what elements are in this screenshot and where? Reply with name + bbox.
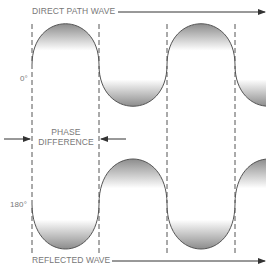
phase-label-line1: PHASE xyxy=(33,127,99,137)
reflected-wave xyxy=(30,159,266,249)
angle-0-label: 0° xyxy=(20,74,28,83)
angle-180-label: 180° xyxy=(10,200,27,209)
direct-path-label: DIRECT PATH WAVE xyxy=(32,6,115,16)
direct-path-wave xyxy=(30,24,266,107)
reflected-wave-label: REFLECTED WAVE xyxy=(32,255,110,265)
phase-label-line2: DIFFERENCE xyxy=(33,137,99,147)
phase-difference-diagram: DIRECT PATH WAVE REFLECTED WAVE 0° 180° … xyxy=(0,0,266,266)
